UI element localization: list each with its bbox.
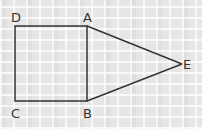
label-a: A xyxy=(83,10,92,25)
label-c: C xyxy=(11,106,20,121)
geometry-figure: D A E C B xyxy=(0,0,202,129)
segment-be xyxy=(87,64,182,101)
label-d: D xyxy=(11,10,21,25)
segment-ae xyxy=(87,26,182,64)
label-e: E xyxy=(183,57,191,72)
label-b: B xyxy=(83,106,92,121)
square-abcd xyxy=(15,26,87,101)
diagram-canvas: D A E C B xyxy=(0,0,202,129)
